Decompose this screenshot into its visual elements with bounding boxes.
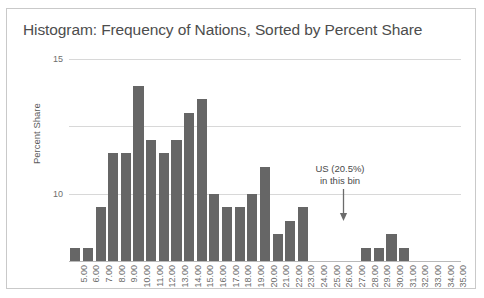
bar bbox=[260, 167, 270, 261]
x-tick-label: 34.00 bbox=[446, 265, 456, 288]
x-tick-label: 13.00 bbox=[180, 265, 190, 288]
us-annotation: US (20.5%) in this bin bbox=[301, 163, 379, 186]
x-tick-label: 12.00 bbox=[167, 265, 177, 288]
bar bbox=[247, 194, 257, 261]
bar bbox=[197, 99, 207, 261]
us-annotation-line2: in this bin bbox=[301, 175, 379, 187]
bar bbox=[171, 140, 181, 261]
chart-frame: Histogram: Frequency of Nations, Sorted … bbox=[6, 8, 476, 289]
x-tick-label: 30.00 bbox=[395, 265, 405, 288]
x-tick-label: 27.00 bbox=[357, 265, 367, 288]
y-tick-label: 15 bbox=[53, 54, 63, 64]
bar bbox=[235, 207, 245, 261]
x-tick-label: 31.00 bbox=[408, 265, 418, 288]
bar bbox=[399, 248, 409, 261]
bar bbox=[159, 153, 169, 261]
x-tick-label: 16.00 bbox=[218, 265, 228, 288]
bar bbox=[273, 234, 283, 261]
bar bbox=[386, 234, 396, 261]
plot-area: 051015 US (20.5%) in this bin bbox=[69, 59, 461, 261]
x-tick-label: 28.00 bbox=[370, 265, 380, 288]
x-tick-label: 32.00 bbox=[420, 265, 430, 288]
chart-title: Histogram: Frequency of Nations, Sorted … bbox=[23, 21, 422, 39]
x-tick-label: 9.00 bbox=[129, 265, 139, 283]
x-tick-label: 22.00 bbox=[294, 265, 304, 288]
y-tick-label: 10 bbox=[53, 189, 63, 199]
x-tick-label: 19.00 bbox=[256, 265, 266, 288]
gridline-15: 15 bbox=[69, 59, 461, 60]
x-axis: 5.006.007.008.009.0010.0011.0012.0013.00… bbox=[69, 261, 461, 298]
bar bbox=[285, 221, 295, 261]
x-tick-label: 8.00 bbox=[117, 265, 127, 283]
x-tick-label: 18.00 bbox=[243, 265, 253, 288]
x-tick-label: 33.00 bbox=[433, 265, 443, 288]
bar bbox=[222, 207, 232, 261]
x-tick-label: 7.00 bbox=[104, 265, 114, 283]
x-tick-label: 11.00 bbox=[155, 265, 165, 287]
x-tick-label: 6.00 bbox=[91, 265, 101, 283]
x-tick-label: 14.00 bbox=[193, 265, 203, 288]
y-axis-label: Percent Share bbox=[31, 103, 42, 164]
bar bbox=[361, 248, 371, 261]
bar bbox=[146, 140, 156, 261]
us-annotation-line1: US (20.5%) bbox=[301, 163, 379, 175]
annotation-arrow-icon bbox=[339, 189, 348, 222]
bar bbox=[184, 113, 194, 261]
x-tick-label: 20.00 bbox=[269, 265, 279, 288]
bar bbox=[96, 207, 106, 261]
x-tick-label: 21.00 bbox=[281, 265, 291, 288]
bar bbox=[209, 194, 219, 261]
x-axis-baseline bbox=[69, 261, 461, 262]
x-tick-label: 35.00 bbox=[458, 265, 468, 288]
bar bbox=[108, 153, 118, 261]
bar bbox=[70, 248, 80, 261]
x-tick-label: 15.00 bbox=[205, 265, 215, 288]
x-tick-label: 24.00 bbox=[319, 265, 329, 288]
x-tick-label: 10.00 bbox=[142, 265, 152, 288]
bar bbox=[83, 248, 93, 261]
x-tick-label: 23.00 bbox=[306, 265, 316, 288]
x-tick-label: 29.00 bbox=[382, 265, 392, 288]
bar bbox=[374, 248, 384, 261]
bar bbox=[133, 86, 143, 261]
bar bbox=[298, 207, 308, 261]
bar bbox=[121, 153, 131, 261]
x-tick-label: 17.00 bbox=[231, 265, 241, 288]
x-tick-label: 26.00 bbox=[344, 265, 354, 288]
gridline-10: 10 bbox=[69, 126, 461, 127]
x-tick-label: 5.00 bbox=[79, 265, 89, 283]
x-tick-label: 25.00 bbox=[332, 265, 342, 288]
